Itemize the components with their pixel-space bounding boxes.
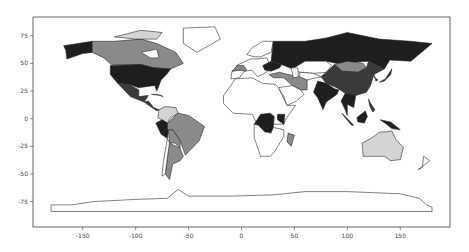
region-borneo [357, 111, 368, 123]
x-tick-label: -150 [76, 232, 90, 239]
region-korea [374, 75, 378, 82]
map-figure: -150-100-50050100150 7550250-25-50-75 [0, 0, 469, 252]
region-new-guinea [380, 120, 400, 130]
region-cuba [152, 94, 164, 96]
region-antarctica [51, 189, 432, 211]
y-tick-label: -50 [18, 170, 28, 177]
y-axis: 7550250-25-50-75 [18, 32, 33, 205]
y-tick-label: 0 [24, 115, 28, 122]
y-tick-label: -25 [18, 142, 28, 149]
x-tick-label: -100 [129, 232, 143, 239]
region-sumatra [342, 113, 354, 125]
region-new-zealand [418, 156, 430, 169]
x-tick-label: -50 [184, 232, 194, 239]
x-tick-label: 0 [240, 232, 244, 239]
y-tick-label: 75 [20, 32, 28, 39]
region-scandinavia [247, 41, 273, 57]
x-tick-label: 100 [342, 232, 354, 239]
region-philippines [369, 99, 375, 112]
region-madagascar [287, 133, 294, 146]
region-central-america [144, 101, 159, 111]
world-choropleth-map: -150-100-50050100150 7550250-25-50-75 [0, 0, 469, 252]
region-australia [362, 131, 403, 161]
y-tick-label: 25 [20, 87, 28, 94]
y-tick-label: -75 [18, 198, 28, 205]
x-tick-label: 50 [291, 232, 299, 239]
region-peru [156, 120, 169, 139]
region-southeast-asia [341, 93, 356, 115]
y-tick-label: 50 [20, 59, 28, 66]
region-alaska [64, 41, 93, 59]
x-tick-label: 150 [395, 232, 407, 239]
region-canadian-arctic-islands [115, 30, 163, 39]
region-greenland [183, 27, 220, 53]
country-layer [51, 27, 432, 212]
region-united-states [110, 65, 170, 92]
x-axis: -150-100-50050100150 [76, 227, 406, 239]
